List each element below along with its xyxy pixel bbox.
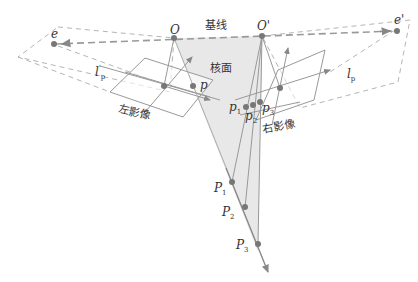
world-point-2-label: P2 bbox=[222, 206, 235, 221]
epipolar-plane-label: 核面 bbox=[210, 63, 232, 74]
right-center-label: O' bbox=[257, 20, 270, 32]
left-point-label: p bbox=[200, 79, 208, 91]
left-epiline-label: l'p bbox=[95, 65, 105, 81]
left-epipole-label: e bbox=[51, 28, 58, 40]
left-center-label: O bbox=[170, 24, 180, 36]
right-point-2-label: p2 bbox=[245, 110, 257, 125]
right-epiline-label: lp bbox=[347, 68, 355, 83]
right-point-1-label: p1 bbox=[229, 101, 241, 116]
world-point-1-label: P1 bbox=[214, 182, 227, 197]
world-point-3-label: P3 bbox=[236, 239, 249, 254]
baseline-label: 基线 bbox=[205, 20, 227, 31]
epipolar-diagram bbox=[0, 0, 418, 282]
right-point-3-label: p3 bbox=[262, 102, 274, 117]
right-epipole-label: e' bbox=[394, 14, 404, 26]
